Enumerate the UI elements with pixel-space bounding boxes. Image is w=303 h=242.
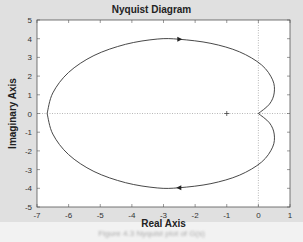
nyquist-plot: -7-6-5-4-3-2-101-5-4-3-2-1012345	[0, 0, 303, 242]
y-axis-label: Imaginary Axis	[7, 74, 18, 154]
y-tick-label: 4	[28, 35, 33, 44]
y-tick-label: 2	[28, 72, 33, 81]
y-tick-label: 1	[28, 91, 33, 100]
figure-caption: Figure 4.3 Nyquist plot of G(s)	[0, 229, 303, 238]
y-tick-label: 5	[28, 16, 33, 25]
y-tick-label: -2	[25, 147, 33, 156]
y-tick-label: 0	[28, 110, 33, 119]
x-axis-label: Real Axis	[37, 218, 290, 229]
y-tick-label: 3	[28, 53, 33, 62]
chart-title: Nyquist Diagram	[0, 4, 303, 15]
y-tick-label: -5	[25, 203, 33, 212]
y-tick-label: -4	[25, 184, 33, 193]
y-tick-label: -1	[25, 128, 33, 137]
y-tick-label: -3	[25, 166, 33, 175]
